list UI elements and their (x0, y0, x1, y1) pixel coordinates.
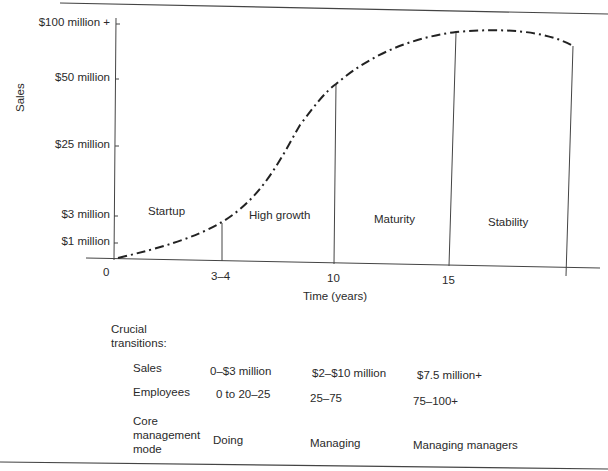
cell-value: $7.5 million+ (417, 368, 482, 382)
cell-value: Doing (213, 433, 243, 447)
cell-value: 0–$3 million (210, 364, 271, 378)
cell-value: Managing (310, 436, 361, 450)
y-tick-label: $50 million (0, 71, 110, 83)
y-axis-label: Sales (14, 83, 26, 112)
boundary-line (566, 46, 573, 276)
y-axis (114, 18, 116, 260)
x-tick-label: 0 (103, 266, 109, 278)
x-tick-label: 3–4 (211, 270, 230, 282)
x-tick-label: 15 (442, 274, 455, 286)
cell-value: $2–$10 million (312, 366, 386, 380)
stage-label-stability: Stability (488, 216, 528, 228)
x-axis (86, 258, 600, 268)
x-axis-label: Time (years) (303, 290, 367, 302)
cell-value: 0 to 20–25 (216, 387, 270, 401)
boundary-line (334, 84, 336, 264)
row-label-management: management (133, 428, 200, 442)
y-tick-label: $3 million (0, 208, 110, 220)
y-tick-label: $100 million + (0, 16, 110, 28)
stage-label-startup: Startup (148, 205, 185, 217)
top-rule (60, 3, 608, 14)
stage-label-high-growth: High growth (249, 209, 310, 221)
cell-value: 25–75 (310, 391, 342, 405)
row-label-employees: Employees (133, 385, 190, 399)
row-label-core: Core (133, 414, 158, 428)
x-tick-label: 10 (327, 272, 340, 284)
stage-label-maturity: Maturity (374, 213, 415, 225)
cell-value: 75–100+ (413, 394, 458, 408)
cell-value: Managing managers (413, 438, 518, 452)
boundary-line (449, 33, 456, 266)
row-label-mode: mode (133, 442, 162, 456)
transitions-heading: Crucial (111, 322, 147, 336)
y-tick-label: $25 million (0, 138, 110, 150)
bottom-rule (0, 462, 608, 469)
transitions-heading: transitions: (111, 336, 167, 350)
row-label-sales: Sales (133, 361, 162, 375)
y-tick-label: $1 million (0, 235, 110, 247)
